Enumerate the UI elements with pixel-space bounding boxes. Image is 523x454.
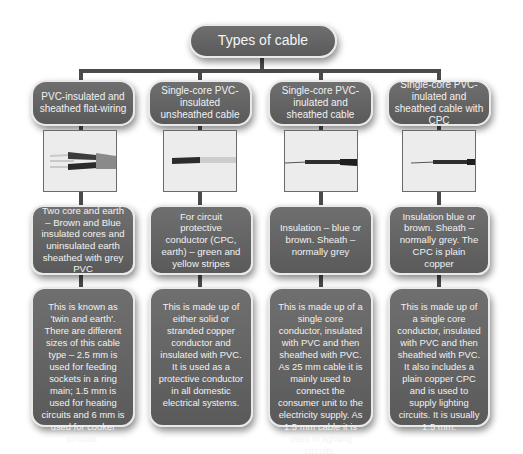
heading-box-single-core-sheathed: Single-core PVC-inulated and sheathed ca…	[268, 80, 373, 126]
heading-text: Single-core PVC-insulated unsheathed cab…	[154, 85, 246, 122]
description-text: For circuit protective conductor (CPC, e…	[159, 211, 243, 270]
description-box-flat-wiring: Two core and earth – Brown and Blue insu…	[31, 205, 135, 275]
description-text: Two core and earth – Brown and Blue insu…	[41, 205, 125, 275]
connector-horizontal	[79, 69, 441, 73]
description-box-single-core-unsheathed: For circuit protective conductor (CPC, e…	[149, 205, 253, 275]
cable-photo-flat-twin-and-earth	[43, 130, 117, 192]
details-text: This is made up of a single core conduct…	[277, 293, 364, 454]
flat-twin-earth-cable-icon	[44, 131, 116, 191]
cable-photo-single-core-sheathed	[284, 130, 358, 192]
heading-text: PVC-insulated and sheathed flat-wiring	[37, 91, 129, 115]
description-text: Insulation – blue or brown. Sheath – nor…	[278, 222, 363, 257]
cable-photo-single-core-sheathed-cpc	[402, 130, 476, 192]
details-text: This is made up of a single core conduct…	[397, 293, 481, 433]
details-box-single-core-unsheathed: This is made up of either solid or stran…	[149, 287, 253, 427]
heading-text: Single-core PVC-inulated and sheathed ca…	[393, 79, 485, 128]
details-box-single-core-sheathed: This is made up of a single core conduct…	[268, 287, 373, 427]
single-core-unsheathed-cable-icon	[164, 131, 236, 191]
heading-box-single-core-sheathed-cpc: Single-core PVC-inulated and sheathed ca…	[387, 80, 491, 126]
diagram-title-text: Types of cable	[218, 32, 308, 49]
heading-text: Single-core PVC-inulated and sheathed ca…	[274, 85, 367, 122]
details-text: This is known as 'twin and earth'. There…	[40, 293, 126, 445]
description-box-single-core-sheathed-cpc: Insulation blue or brown. Sheath – norma…	[388, 205, 490, 275]
diagram-title: Types of cable	[189, 24, 337, 58]
description-box-single-core-sheathed: Insulation – blue or brown. Sheath – nor…	[268, 205, 373, 275]
details-text: This is made up of either solid or stran…	[158, 293, 244, 409]
description-text: Insulation blue or brown. Sheath – norma…	[398, 211, 480, 270]
details-box-single-core-sheathed-cpc: This is made up of a single core conduct…	[388, 287, 490, 427]
cable-photo-single-core-unsheathed	[163, 130, 237, 192]
heading-box-flat-wiring: PVC-insulated and sheathed flat-wiring	[31, 80, 135, 126]
details-box-flat-wiring: This is known as 'twin and earth'. There…	[31, 287, 135, 427]
single-core-sheathed-cable-icon	[285, 131, 357, 191]
heading-box-single-core-unsheathed: Single-core PVC-insulated unsheathed cab…	[148, 80, 252, 126]
single-core-sheathed-cpc-cable-icon	[403, 131, 475, 191]
